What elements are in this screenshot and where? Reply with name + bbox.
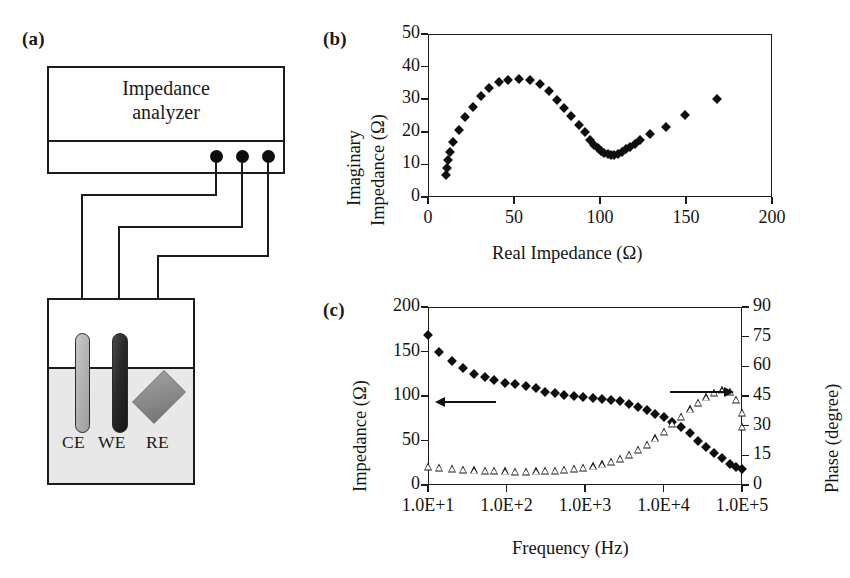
right-axis-arrow-line: [670, 391, 724, 393]
panel-c-phase-point-inner-9: [523, 469, 529, 474]
panel-c-phase-point-25: [668, 420, 676, 428]
panel-c-phase-point-inner-11: [542, 469, 548, 474]
panel-c-right-ytick-1: [742, 455, 749, 457]
panel-c-phase-point-inner-28: [695, 401, 701, 406]
panel-c-xticklabel-1: 1.0E+2: [462, 495, 552, 516]
analyzer-label: Impedance analyzer: [47, 76, 285, 125]
panel-c-phase-point-inner-14: [571, 467, 577, 472]
panel-c-phase-point-inner-23: [652, 436, 658, 441]
wire-2-seg-h: [118, 226, 243, 228]
panel-c-phase-point-inner-18: [608, 460, 614, 465]
panel-c-left-ytick-3: [421, 351, 428, 353]
panel-c-phase-point-29: [702, 393, 710, 401]
wire-1-seg-h: [81, 194, 217, 196]
panel-c-bode-chart: (c) 1.0E+11.0E+21.0E+31.0E+41.0E+5050100…: [310, 285, 850, 578]
panel-b-xtick-3: [685, 197, 687, 204]
counter-electrode: [75, 333, 90, 433]
panel-c-phase-point-inner-2: [449, 467, 455, 472]
panel-c-phase-point-inner-6: [491, 469, 497, 474]
panel-c-phase-point-23: [651, 434, 659, 442]
panel-b-xticklabel-3: 150: [664, 207, 708, 228]
panel-b-yaxis-title-line2: Impedance (Ω): [368, 114, 389, 226]
panel-c-phase-point-20: [625, 451, 633, 459]
panel-c-xtick-2: [584, 485, 586, 492]
panel-c-phase-point-inner-12: [552, 469, 558, 474]
panel-c-xticklabel-2: 1.0E+3: [540, 495, 630, 516]
wire-3-seg-h: [157, 255, 269, 257]
panel-c-phase-point-28: [694, 399, 702, 407]
panel-c-left-yticklabel-0: 0: [375, 473, 420, 494]
panel-c-phase-point-8: [511, 467, 519, 475]
panel-c-left-yticklabel-4: 200: [375, 295, 420, 316]
panel-c-phase-point-24: [660, 427, 668, 435]
panel-c-phase-point-4: [470, 466, 478, 474]
panel-b-xtick-2: [599, 197, 601, 204]
panel-c-left-ytick-4: [421, 306, 428, 308]
panel-c-phase-point-13: [560, 466, 568, 474]
panel-c-left-ytick-0: [421, 484, 428, 486]
panel-c-phase-point-inner-25: [669, 422, 675, 427]
panel-c-phase-point-inner-15: [580, 466, 586, 471]
reference-electrode-diamond: [132, 370, 186, 424]
panel-c-right-ytick-2: [742, 425, 749, 427]
reference-electrode: [137, 365, 181, 429]
panel-c-phase-point-inner-4: [471, 468, 477, 473]
panel-b-yticklabel-5: 50: [376, 22, 420, 43]
panel-b-ytick-5: [421, 33, 428, 35]
panel-c-phase-point-11: [541, 467, 549, 475]
panel-c-right-yticklabel-3: 45: [753, 384, 793, 405]
panel-c-phase-point-inner-1: [436, 466, 442, 471]
panel-b-xticklabel-2: 100: [578, 207, 622, 228]
panel-c-right-yticklabel-5: 75: [753, 325, 793, 346]
panel-c-phase-point-inner-20: [626, 453, 632, 458]
working-electrode: [112, 333, 128, 433]
panel-c-phase-point-1: [435, 464, 443, 472]
analyzer-label-line2: analyzer: [47, 100, 285, 124]
panel-b-xaxis-title: Real Impedance (Ω): [492, 243, 642, 264]
panel-c-phase-point-inner-0: [425, 465, 431, 470]
panel-c-phase-point-inner-34: [739, 411, 745, 416]
panel-b-yticklabel-4: 40: [376, 55, 420, 76]
panel-c-phase-point-inner-24: [661, 429, 667, 434]
panel-c-left-ytick-2: [421, 395, 428, 397]
working-electrode-label: WE: [98, 432, 126, 453]
panel-c-phase-point-27: [686, 405, 694, 413]
panel-c-phase-point-0: [424, 463, 432, 471]
panel-c-phase-point-3: [459, 466, 467, 474]
panel-c-phase-point-17: [598, 460, 606, 468]
panel-c-xticklabel-3: 1.0E+4: [619, 495, 709, 516]
left-axis-arrow-line: [444, 401, 496, 403]
panel-c-phase-point-inner-13: [561, 468, 567, 473]
panel-c-phase-point-19: [616, 454, 624, 462]
wire-3-seg-v1: [267, 162, 269, 256]
panel-c-phase-point-21: [634, 446, 642, 454]
panel-c-phase-point-inner-21: [635, 448, 641, 453]
panel-c-phase-point-5: [481, 466, 489, 474]
panel-b-ytick-4: [421, 66, 428, 68]
panel-b-yticklabel-3: 30: [376, 87, 420, 108]
panel-a-label: (a): [22, 28, 45, 50]
panel-c-left-yaxis-title: Impedance (Ω): [350, 380, 371, 492]
panel-b-xtick-0: [427, 197, 429, 204]
panel-c-xaxis-title: Frequency (Hz): [512, 538, 629, 559]
panel-c-phase-point-22: [643, 440, 651, 448]
panel-b-ytick-3: [421, 98, 428, 100]
right-axis-arrow-head: [724, 387, 734, 397]
panel-c-phase-point-2: [448, 465, 456, 473]
panel-c-right-ytick-3: [742, 395, 749, 397]
panel-c-phase-point-inner-10: [533, 469, 539, 474]
panel-c-right-yticklabel-1: 15: [753, 443, 793, 464]
panel-c-phase-point-inner-22: [644, 443, 650, 448]
panel-c-phase-point-inner-27: [687, 407, 693, 412]
figure-root: (a) Impedance analyzer CE WE: [0, 0, 850, 578]
panel-b-xtick-4: [771, 197, 773, 204]
panel-b-ytick-0: [421, 196, 428, 198]
panel-b-label: (b): [323, 28, 347, 50]
panel-c-phase-point-16: [589, 462, 597, 470]
panel-c-phase-point-inner-26: [678, 414, 684, 419]
panel-c-phase-point-6: [490, 467, 498, 475]
wire-2-seg-v1: [241, 162, 243, 227]
panel-c-right-ytick-0: [742, 484, 749, 486]
panel-c-phase-point-7: [501, 467, 509, 475]
panel-c-phase-point-inner-7: [502, 469, 508, 474]
